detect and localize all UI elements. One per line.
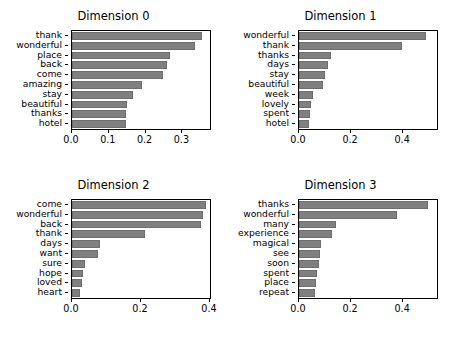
bar bbox=[72, 32, 202, 40]
bar bbox=[72, 91, 133, 99]
x-tick-mark bbox=[71, 130, 72, 133]
bar bbox=[299, 221, 336, 229]
x-tick-mark bbox=[298, 299, 299, 302]
bar bbox=[72, 230, 145, 238]
y-tick-mark bbox=[292, 292, 295, 293]
y-tick-mark bbox=[65, 104, 68, 105]
y-tick-mark bbox=[65, 233, 68, 234]
y-tick-mark bbox=[65, 253, 68, 254]
bar bbox=[72, 120, 126, 128]
bar-series bbox=[72, 31, 210, 129]
bar bbox=[299, 211, 397, 219]
x-tick-mark bbox=[71, 299, 72, 302]
bar bbox=[299, 91, 313, 99]
bar bbox=[299, 110, 310, 118]
plot-area bbox=[298, 30, 438, 130]
y-tick-mark bbox=[65, 84, 68, 85]
y-tick-mark bbox=[292, 113, 295, 114]
panel-title: Dimension 0 bbox=[0, 10, 227, 23]
y-tick-mark bbox=[292, 263, 295, 264]
bar bbox=[299, 52, 331, 60]
x-tick-label: 0.0 bbox=[63, 135, 78, 145]
x-tick-label: 0.4 bbox=[395, 135, 410, 145]
bar bbox=[299, 201, 428, 209]
y-tick-mark bbox=[292, 243, 295, 244]
x-tick-mark bbox=[298, 130, 299, 133]
bar bbox=[299, 42, 402, 50]
x-tick-mark bbox=[350, 130, 351, 133]
x-tick-label: 0.2 bbox=[342, 135, 357, 145]
y-tick-mark bbox=[65, 292, 68, 293]
x-tick-label: 0.0 bbox=[290, 135, 305, 145]
y-axis-labels: thankwonderfulplacebackcomeamazingstaybe… bbox=[0, 30, 68, 130]
y-tick-mark bbox=[65, 204, 68, 205]
bar bbox=[72, 81, 142, 89]
bar bbox=[299, 260, 319, 268]
x-tick-mark bbox=[350, 299, 351, 302]
y-axis-labels: wonderfulthankthanksdaysstaybeautifulwee… bbox=[227, 30, 295, 130]
bar bbox=[299, 250, 320, 258]
y-tick-mark bbox=[65, 35, 68, 36]
x-tick-mark bbox=[181, 130, 182, 133]
bar bbox=[72, 240, 100, 248]
x-axis: 0.00.20.4 bbox=[71, 299, 211, 321]
y-tick-mark bbox=[65, 243, 68, 244]
x-tick-label: 0.0 bbox=[63, 304, 78, 314]
y-tick-mark bbox=[65, 282, 68, 283]
x-tick-label: 0.3 bbox=[174, 135, 189, 145]
x-tick-label: 0.4 bbox=[201, 304, 216, 314]
y-tick-mark bbox=[292, 224, 295, 225]
y-tick-mark bbox=[292, 94, 295, 95]
y-axis-labels: thankswonderfulmanyexperiencemagicalsees… bbox=[227, 199, 295, 299]
x-tick-mark bbox=[108, 130, 109, 133]
bar bbox=[299, 71, 325, 79]
bar bbox=[72, 211, 203, 219]
panel-dimension-3: Dimension 3 thankswonderfulmanyexperienc… bbox=[227, 177, 454, 339]
x-tick-label: 0.1 bbox=[100, 135, 115, 145]
panel-dimension-2: Dimension 2 comewonderfulbackthankdayswa… bbox=[0, 177, 227, 339]
bar bbox=[72, 250, 98, 258]
x-tick-mark bbox=[140, 299, 141, 302]
plot-area bbox=[71, 30, 211, 130]
bar-series bbox=[299, 31, 437, 129]
x-tick-mark bbox=[402, 130, 403, 133]
y-tick-mark bbox=[292, 55, 295, 56]
y-tick-mark bbox=[65, 45, 68, 46]
bar bbox=[72, 289, 80, 297]
y-tick-mark bbox=[65, 224, 68, 225]
y-tick-mark bbox=[292, 123, 295, 124]
y-tick-mark bbox=[292, 233, 295, 234]
y-tick-mark bbox=[65, 113, 68, 114]
bar bbox=[72, 42, 195, 50]
bar bbox=[72, 201, 206, 209]
plot-area bbox=[298, 199, 438, 299]
bar bbox=[299, 32, 426, 40]
bar bbox=[299, 101, 311, 109]
y-tick-mark bbox=[292, 104, 295, 105]
panel-title: Dimension 2 bbox=[0, 179, 227, 192]
bar bbox=[72, 110, 126, 118]
bar bbox=[299, 279, 316, 287]
y-tick-label: hotel bbox=[39, 118, 62, 127]
y-tick-mark bbox=[65, 55, 68, 56]
bar bbox=[72, 101, 127, 109]
x-tick-label: 0.0 bbox=[290, 304, 305, 314]
bar bbox=[299, 270, 317, 278]
y-tick-mark bbox=[65, 263, 68, 264]
x-tick-mark bbox=[145, 130, 146, 133]
bar bbox=[72, 221, 201, 229]
y-tick-mark bbox=[292, 35, 295, 36]
y-tick-mark bbox=[65, 94, 68, 95]
y-tick-mark bbox=[292, 214, 295, 215]
y-tick-label: heart bbox=[38, 287, 63, 296]
bar bbox=[72, 52, 170, 60]
x-tick-label: 0.2 bbox=[137, 135, 152, 145]
y-tick-mark bbox=[292, 253, 295, 254]
y-tick-mark bbox=[65, 214, 68, 215]
y-tick-mark bbox=[292, 45, 295, 46]
bar bbox=[72, 279, 82, 287]
bar bbox=[299, 81, 323, 89]
y-tick-mark bbox=[65, 64, 68, 65]
bar bbox=[299, 240, 321, 248]
bar-series bbox=[72, 200, 210, 298]
